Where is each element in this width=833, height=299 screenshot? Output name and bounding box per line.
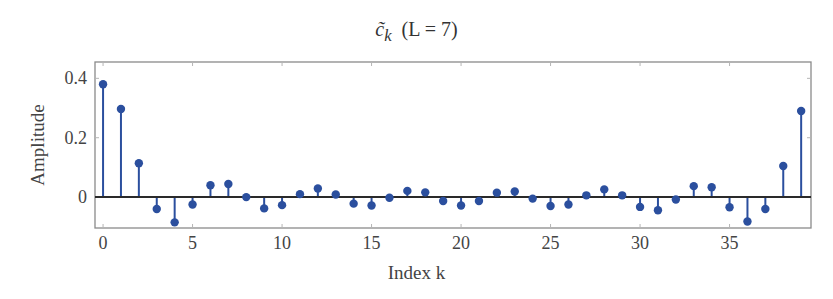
stem-marker — [278, 201, 286, 209]
x-tick-label: 20 — [452, 233, 470, 253]
stem-marker — [135, 159, 143, 167]
stem-marker — [582, 191, 590, 199]
x-axis-label: Index k — [0, 262, 833, 284]
stem-marker — [224, 180, 232, 188]
stem-marker — [672, 195, 680, 203]
stem-marker — [797, 107, 805, 115]
x-tick-label: 30 — [631, 233, 649, 253]
stem-marker — [242, 193, 250, 201]
stem-marker — [564, 200, 572, 208]
stem-marker — [690, 182, 698, 190]
stem-marker — [367, 201, 375, 209]
stem-marker — [636, 203, 644, 211]
stem-marker — [761, 205, 769, 213]
stem-marker — [117, 105, 125, 113]
stem-marker — [206, 181, 214, 189]
stem-marker — [546, 202, 554, 210]
stem-marker — [385, 194, 393, 202]
stem-marker — [743, 217, 751, 225]
stem-marker — [493, 188, 501, 196]
x-tick-label: 0 — [99, 233, 108, 253]
stem-marker — [618, 191, 626, 199]
y-tick-label: 0.4 — [65, 68, 88, 88]
y-tick-label: 0.2 — [65, 128, 88, 148]
x-tick-label: 10 — [273, 233, 291, 253]
stem-marker — [457, 201, 465, 209]
stem-marker — [439, 197, 447, 205]
stem-marker — [332, 190, 340, 198]
title-symbol: c̃ — [375, 18, 384, 40]
stem-marker — [421, 188, 429, 196]
x-tick-label: 15 — [363, 233, 381, 253]
plot-frame — [95, 62, 811, 228]
chart-title: c̃k (L = 7) — [0, 18, 833, 46]
stem-series — [95, 80, 811, 226]
stem-marker — [654, 206, 662, 214]
stem-marker — [296, 190, 304, 198]
stem-marker — [99, 80, 107, 88]
stem-marker — [188, 200, 196, 208]
stem-marker — [260, 204, 268, 212]
stem-marker — [314, 184, 322, 192]
stem-marker — [707, 183, 715, 191]
stem-marker — [170, 218, 178, 226]
stem-marker — [779, 162, 787, 170]
stem-marker — [403, 187, 411, 195]
stem-marker — [528, 194, 536, 202]
x-tick-label: 25 — [542, 233, 560, 253]
title-suffix: (L = 7) — [402, 18, 458, 40]
stem-marker — [349, 199, 357, 207]
stem-marker — [475, 197, 483, 205]
y-tick-label: 0 — [78, 187, 87, 207]
y-axis-label: Amplitude — [27, 104, 49, 185]
stem-marker — [511, 187, 519, 195]
x-tick-label: 5 — [188, 233, 197, 253]
title-subscript: k — [384, 26, 391, 45]
x-tick-label: 35 — [721, 233, 739, 253]
stem-marker — [725, 203, 733, 211]
stem-marker — [153, 205, 161, 213]
stem-marker — [600, 185, 608, 193]
